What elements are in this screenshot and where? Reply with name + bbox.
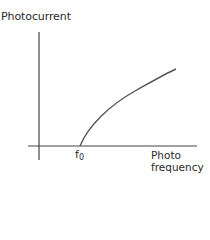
- x-axis-label-line-1: Photo: [151, 149, 204, 161]
- threshold-frequency-label: f0: [75, 148, 84, 162]
- x-axis-label: Photo frequency: [151, 149, 204, 173]
- x-axis-label-line-2: frequency: [151, 161, 204, 173]
- photocurrent-curve: [80, 69, 176, 146]
